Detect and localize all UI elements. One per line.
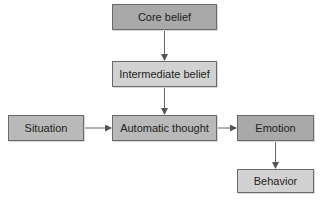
node-emotion: Emotion bbox=[237, 115, 314, 141]
node-behavior: Behavior bbox=[237, 169, 314, 193]
node-core-belief: Core belief bbox=[112, 4, 217, 30]
node-intermediate-belief: Intermediate belief bbox=[112, 61, 217, 87]
node-situation: Situation bbox=[8, 115, 84, 141]
node-automatic-thought: Automatic thought bbox=[112, 115, 217, 141]
